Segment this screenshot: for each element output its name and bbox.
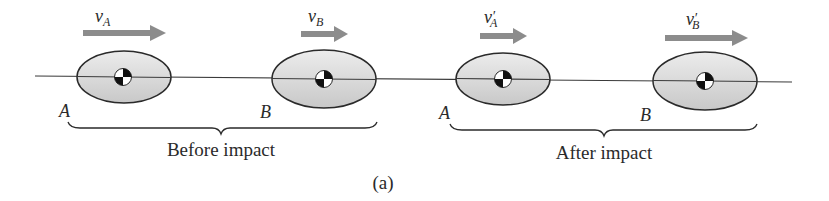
velocity-label-vb-prime: v′B	[686, 9, 700, 32]
brace-icon	[450, 124, 757, 136]
velocity-arrow-icon	[480, 28, 527, 44]
panel-title-after: After impact	[556, 142, 653, 163]
body-label-a: A	[58, 101, 71, 121]
velocity-label-va-prime: v′A	[484, 7, 498, 30]
body-a-after	[456, 53, 550, 105]
body-a	[77, 51, 171, 103]
velocity-arrow-icon	[301, 26, 348, 42]
body-label-b: B	[260, 102, 271, 122]
velocity-label-vb: vB	[308, 6, 324, 29]
velocity-arrow-icon	[665, 30, 748, 46]
body-b-after	[653, 52, 757, 110]
velocity-arrow-icon	[83, 25, 166, 41]
center-of-mass-icon	[115, 69, 132, 86]
panel-after-impact: v′A v′B A	[438, 7, 757, 163]
velocity-label-va: vA	[95, 6, 111, 29]
center-of-mass-icon	[697, 73, 714, 90]
body-label-b-after: B	[640, 105, 651, 125]
collision-diagram: vA vB A	[0, 0, 829, 201]
brace-icon	[68, 122, 377, 134]
center-of-mass-icon	[495, 71, 512, 88]
panel-title-before: Before impact	[167, 139, 276, 160]
figure-caption: (a)	[372, 172, 393, 194]
center-of-mass-icon	[316, 71, 333, 88]
panel-before-impact: vA vB A	[58, 6, 377, 160]
body-label-a-after: A	[438, 103, 451, 123]
body-b	[272, 50, 376, 108]
